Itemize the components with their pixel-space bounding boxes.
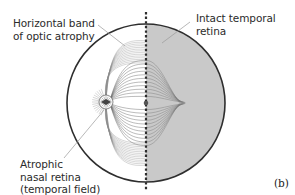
- label-line: nasal retina: [20, 171, 100, 184]
- nerve-fiber: [106, 44, 146, 100]
- nerve-fiber: [106, 104, 146, 159]
- nerve-fiber: [106, 49, 146, 100]
- panel-label: (b): [274, 177, 289, 189]
- label-line: Intact temporal: [196, 12, 276, 25]
- label-horizontal-band: Horizontal band of optic atrophy: [13, 17, 95, 42]
- label-intact-temporal-retina: Intact temporal retina: [196, 12, 276, 37]
- intact-temporal-half: [146, 20, 226, 190]
- label-line: retina: [196, 25, 276, 38]
- nerve-fiber: [106, 104, 146, 155]
- label-line: of optic atrophy: [13, 30, 95, 43]
- label-line: Horizontal band: [13, 17, 95, 30]
- nerve-fiber: [106, 104, 146, 157]
- optic-disc: [99, 95, 113, 109]
- retina-diagram: Horizontal band of optic atrophy Intact …: [0, 0, 295, 195]
- label-atrophic-nasal-retina: Atrophic nasal retina (temporal field): [20, 158, 100, 195]
- nerve-fiber: [110, 104, 146, 125]
- nerve-fiber: [110, 104, 146, 121]
- nerve-fiber: [106, 47, 146, 100]
- label-line: (temporal field): [20, 183, 100, 195]
- fovea-dot: [144, 101, 149, 106]
- nerve-fiber: [106, 51, 146, 100]
- label-line: Atrophic: [20, 158, 100, 171]
